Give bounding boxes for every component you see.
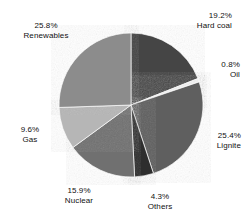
pie-label-nuclear: 15.9% Nuclear xyxy=(52,186,106,206)
pie-label-nuclear-name: Nuclear xyxy=(52,196,106,206)
pie-label-oil: 0.8% Oil xyxy=(196,60,240,80)
pie-label-oil-percent: 0.8% xyxy=(196,60,240,70)
pie-label-renewables: 25.8% Renewables xyxy=(13,21,79,41)
pie-label-renewables-percent: 25.8% xyxy=(13,21,79,31)
pie-chart-figure: 19.2% Hard coal 0.8% Oil 25.4% Lignite 4… xyxy=(0,0,247,222)
pie-label-lignite: 25.4% Lignite xyxy=(186,131,241,151)
pie-slices xyxy=(59,33,203,177)
pie-label-renewables-name: Renewables xyxy=(13,31,79,41)
pie-label-hard-coal-name: Hard coal xyxy=(170,21,232,31)
pie-label-gas: 9.6% Gas xyxy=(10,125,50,145)
pie-label-hard-coal-percent: 19.2% xyxy=(170,11,232,21)
pie-label-gas-percent: 9.6% xyxy=(10,125,50,135)
pie-label-others: 4.3% Others xyxy=(136,192,184,212)
pie-label-lignite-percent: 25.4% xyxy=(186,131,241,141)
pie-label-others-name: Others xyxy=(136,202,184,212)
pie-label-oil-name: Oil xyxy=(196,70,240,80)
pie-label-others-percent: 4.3% xyxy=(136,192,184,202)
pie-label-gas-name: Gas xyxy=(10,135,50,145)
pie-label-nuclear-percent: 15.9% xyxy=(52,186,106,196)
pie-slice-renewables xyxy=(59,33,131,107)
pie-label-lignite-name: Lignite xyxy=(186,141,241,151)
pie-label-hard-coal: 19.2% Hard coal xyxy=(170,11,232,31)
